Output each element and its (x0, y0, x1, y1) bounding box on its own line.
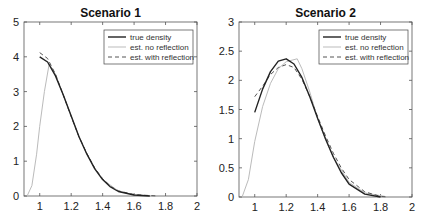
x-tick-label: 1.2 (64, 200, 79, 212)
y-tick-label: 1 (228, 133, 234, 145)
legend-entry: est. with reflection (345, 53, 409, 62)
x-tick-label: 1.6 (341, 201, 356, 213)
y-tick-label: 5 (13, 16, 19, 28)
legend-entry: est. with reflection (130, 53, 194, 62)
legend-entry: est. no reflection (130, 43, 189, 52)
legend-entry: est. no reflection (345, 43, 404, 52)
series-line (255, 65, 389, 197)
x-tick-label: 1 (252, 201, 258, 213)
legend-entry: true density (130, 33, 171, 42)
y-tick-label: 3 (228, 16, 234, 28)
y-tick-label: 4 (13, 51, 19, 63)
x-tick-label: 1 (37, 200, 43, 212)
y-tick-label: 3 (13, 86, 19, 98)
series-line (40, 57, 150, 196)
x-tick-label: 1.6 (126, 200, 141, 212)
x-tick-label: 1.4 (310, 201, 325, 213)
series-line (255, 59, 381, 197)
x-tick-label: 1.8 (373, 201, 388, 213)
y-tick-label: 1 (13, 155, 19, 167)
x-tick-label: 1.4 (95, 200, 110, 212)
x-tick-label: 1.8 (158, 200, 173, 212)
y-tick-label: 2 (13, 120, 19, 132)
chart-2: Scenario 211.21.41.61.8200.511.522.53tru… (219, 6, 415, 213)
x-tick-label: 2 (194, 200, 200, 212)
y-tick-label: 2.5 (219, 45, 234, 57)
y-tick-label: 2 (228, 74, 234, 86)
series-line (242, 59, 388, 197)
y-tick-label: 0.5 (219, 162, 234, 174)
x-tick-label: 2 (409, 201, 415, 213)
y-tick-label: 1.5 (219, 104, 234, 116)
chart-title: Scenario 1 (80, 6, 141, 20)
y-tick-label: 0 (228, 191, 234, 203)
series-line (27, 64, 158, 196)
chart-title: Scenario 2 (295, 6, 356, 20)
figure: Scenario 111.21.41.61.82012345true densi… (0, 0, 427, 222)
x-tick-label: 1.2 (279, 201, 294, 213)
chart-1: Scenario 111.21.41.61.82012345true densi… (13, 6, 200, 212)
y-tick-label: 0 (13, 190, 19, 202)
legend-entry: true density (345, 33, 386, 42)
